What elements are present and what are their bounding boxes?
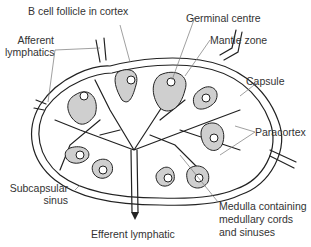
germinal-centre (127, 76, 135, 84)
germinal-centre (164, 174, 172, 182)
label-afferent-1: Afferent (6, 34, 54, 46)
follicle (115, 70, 137, 102)
germinal-centre (80, 92, 88, 100)
germinal-centre (99, 166, 107, 174)
label-medulla-1: Medulla containing (219, 200, 307, 212)
label-subcapsular-1: Subcapsular (4, 182, 68, 194)
germinal-centre (202, 94, 210, 102)
germinal-centre (210, 134, 218, 142)
arrow-icon (131, 212, 139, 220)
germinal-centre (76, 151, 84, 159)
germinal-centre (167, 78, 175, 86)
label-efferent: Efferent lymphatic (91, 228, 175, 240)
label-mantle-zone: Mantle zone (210, 34, 267, 46)
afferent-lymphatic (96, 38, 106, 62)
label-germinal-centre: Germinal centre (186, 12, 261, 24)
label-paracortex: Paracortex (255, 126, 306, 138)
label-medulla-2: medullary cords (219, 213, 293, 225)
label-medulla-3: and sinuses (219, 226, 275, 238)
efferent-lymphatic (131, 150, 138, 212)
label-subcapsular-2: sinus (4, 194, 68, 206)
label-afferent-2: lymphatics (5, 46, 55, 58)
label-capsule: Capsule (246, 75, 285, 87)
label-b-cell-follicle: B cell follicle in cortex (28, 5, 128, 17)
afferent-lymphatic (270, 150, 296, 168)
